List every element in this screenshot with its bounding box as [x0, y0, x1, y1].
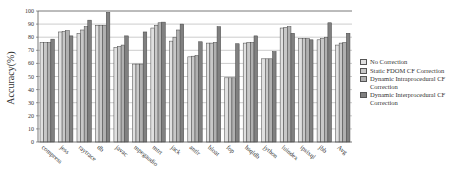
bar	[336, 45, 340, 142]
bar	[247, 42, 251, 142]
bar	[324, 37, 328, 142]
x-tick-label: jess	[58, 143, 71, 156]
bar	[154, 25, 158, 142]
bar	[173, 37, 177, 142]
y-axis-ticks: 0102030405060708090100	[25, 8, 38, 145]
bar	[302, 39, 306, 142]
y-tick-label: 80	[28, 34, 34, 40]
bar	[69, 36, 73, 142]
y-tick-label: 50	[28, 74, 34, 80]
x-tick-label: antlr	[188, 143, 202, 157]
bar	[280, 28, 284, 142]
bar	[84, 27, 88, 142]
y-tick-label: 30	[28, 100, 34, 106]
bar	[51, 39, 55, 142]
x-tick-label: hsqldb	[244, 143, 262, 160]
bar	[254, 36, 258, 142]
bar	[343, 42, 347, 142]
legend-item-dynamic-intraprocedural: Dynamic Intraprocedural CF Correction	[360, 75, 455, 90]
bar	[106, 12, 110, 142]
bar	[44, 42, 48, 142]
bar	[188, 57, 192, 142]
bar	[328, 23, 332, 142]
bars	[40, 12, 350, 142]
bar	[103, 25, 107, 142]
bar	[151, 28, 155, 142]
bar	[140, 64, 144, 142]
bar	[262, 59, 266, 142]
bar	[143, 32, 147, 142]
x-tick-label: raytrace	[78, 143, 99, 162]
x-tick-label: luindex	[281, 143, 301, 161]
bar	[40, 42, 44, 142]
bar	[317, 40, 321, 142]
bar	[77, 33, 81, 142]
legend-label: No Correction	[370, 58, 455, 66]
legend-item-dynamic-interprocedural: Dynamic Interprocedural CF Correction	[360, 91, 455, 106]
legend-swatch	[360, 59, 367, 65]
x-tick-label: jack	[169, 143, 183, 156]
bar	[346, 33, 350, 142]
bar	[47, 42, 51, 142]
bar	[217, 27, 221, 142]
bar	[243, 43, 247, 142]
x-tick-label: mtrt	[151, 143, 164, 155]
bar	[339, 43, 343, 142]
bar	[62, 31, 66, 142]
bar	[158, 23, 162, 142]
bar	[162, 22, 166, 142]
legend: No Correction Static FDOM CF Correction …	[360, 58, 455, 107]
bar	[236, 44, 240, 142]
legend-label: Dynamic Intraprocedural CF Correction	[370, 75, 455, 90]
y-tick-label: 90	[28, 21, 34, 27]
bar	[206, 43, 210, 142]
y-tick-label: 60	[28, 60, 34, 66]
bar	[114, 48, 118, 142]
legend-item-static-fdom: Static FDOM CF Correction	[360, 67, 455, 75]
bar	[284, 27, 288, 142]
legend-label: Static FDOM CF Correction	[370, 67, 455, 75]
x-tick-label: fop	[225, 143, 236, 154]
bar	[59, 32, 63, 142]
legend-label: Dynamic Interprocedural CF Correction	[370, 91, 455, 106]
bar	[191, 56, 195, 142]
x-tick-label: Avg	[336, 143, 349, 156]
x-tick-label: bloat	[207, 143, 222, 157]
legend-swatch	[360, 92, 367, 98]
y-tick-label: 40	[28, 87, 34, 93]
legend-swatch	[360, 68, 367, 74]
bar	[213, 42, 217, 142]
bar	[225, 78, 229, 142]
legend-item-no-correction: No Correction	[360, 58, 455, 66]
bar	[132, 64, 136, 142]
bar	[81, 30, 85, 142]
bar	[136, 64, 140, 142]
x-tick-label: javac	[114, 143, 130, 158]
bar	[118, 46, 122, 142]
bar	[228, 78, 232, 142]
bar	[125, 36, 129, 142]
bar	[99, 25, 103, 142]
bar	[306, 39, 310, 142]
bar	[180, 24, 184, 142]
bar	[250, 42, 254, 142]
x-tick-label: ipsixql	[299, 143, 317, 160]
y-tick-label: 20	[28, 113, 34, 119]
bar	[309, 40, 313, 142]
bar	[95, 25, 99, 142]
bar	[299, 39, 303, 142]
bar	[195, 56, 199, 142]
bar	[232, 78, 236, 142]
bar	[272, 52, 276, 142]
bar	[88, 20, 92, 142]
y-axis-label: Accuracy(%)	[5, 51, 17, 104]
bar	[210, 43, 214, 142]
x-tick-label: db	[96, 143, 105, 153]
bar	[321, 39, 325, 142]
bar	[66, 31, 70, 142]
bar	[291, 33, 295, 142]
bar	[199, 42, 203, 142]
y-tick-label: 0	[31, 139, 34, 145]
y-tick-label: 10	[28, 126, 34, 132]
legend-swatch	[360, 76, 367, 82]
